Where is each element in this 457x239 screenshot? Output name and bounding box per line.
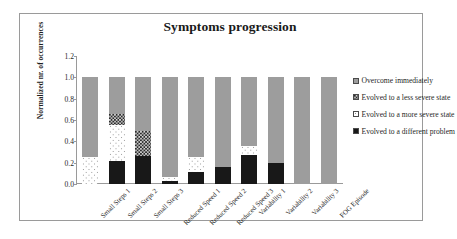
legend-item-label: Evolved to a different problem bbox=[362, 127, 456, 136]
y-axis-title: Normalized nr. of occurrences bbox=[36, 7, 45, 135]
plot-area: Small Steps 1Small Steps 2Small Steps 3R… bbox=[77, 56, 342, 184]
bar-segment bbox=[241, 77, 257, 145]
legend-item-label: Evolved to a more severe state bbox=[362, 110, 455, 119]
bar-segment bbox=[109, 114, 125, 126]
bar-segment bbox=[241, 146, 257, 156]
bar-segment bbox=[109, 77, 125, 113]
bar-4[interactable] bbox=[162, 77, 178, 184]
legend-swatch-icon bbox=[353, 78, 359, 84]
y-axis-tick-label: 0.2 bbox=[65, 158, 75, 167]
y-axis-tick-label: 0.8 bbox=[65, 94, 75, 103]
bar-3[interactable] bbox=[135, 77, 151, 184]
y-axis-tick-label: 0.6 bbox=[65, 116, 75, 125]
bar-segment bbox=[241, 155, 257, 184]
legend-item-4[interactable]: Evolved to a different problem bbox=[353, 127, 457, 136]
legend-item-2[interactable]: Evolved to a less severe state bbox=[353, 93, 457, 102]
x-axis-label: FOG Episode bbox=[338, 187, 371, 220]
bar-segment bbox=[135, 77, 151, 130]
bar-segment bbox=[82, 77, 98, 157]
y-axis-tick-mark bbox=[74, 120, 77, 121]
bar-segment bbox=[109, 125, 125, 160]
bar-10[interactable] bbox=[321, 77, 337, 184]
bar-segment bbox=[188, 157, 204, 172]
x-axis-label: Variability 2 bbox=[284, 187, 314, 217]
bar-segment bbox=[188, 172, 204, 184]
legend-swatch-icon bbox=[353, 128, 359, 134]
bar-5[interactable] bbox=[188, 77, 204, 184]
bar-7[interactable] bbox=[241, 77, 257, 184]
bar-2[interactable] bbox=[109, 77, 125, 184]
bar-segment bbox=[109, 161, 125, 184]
legend-item-label: Overcome immediately bbox=[362, 76, 433, 85]
legend-swatch-icon bbox=[353, 94, 359, 100]
bar-segment bbox=[82, 157, 98, 184]
bar-segment bbox=[162, 181, 178, 184]
bar-segment bbox=[215, 77, 231, 167]
y-axis-tick-mark bbox=[74, 163, 77, 164]
legend-swatch-icon bbox=[353, 111, 359, 117]
bar-segment bbox=[294, 77, 310, 184]
bar-segment bbox=[135, 131, 151, 157]
y-axis-tick-mark bbox=[74, 141, 77, 142]
bar-segment bbox=[321, 77, 337, 184]
y-axis-tick-label: 0.0 bbox=[65, 180, 75, 189]
chart-frame: Symptoms progression Normalized nr. of o… bbox=[19, 13, 423, 221]
bars-container: Small Steps 1Small Steps 2Small Steps 3R… bbox=[77, 56, 342, 184]
bar-1[interactable] bbox=[82, 77, 98, 184]
bar-6[interactable] bbox=[215, 77, 231, 184]
y-axis-tick-mark bbox=[74, 77, 77, 78]
legend-item-label: Evolved to a less severe state bbox=[362, 93, 451, 102]
y-axis-tick-label: 1.2 bbox=[65, 52, 75, 61]
y-axis-tick-mark bbox=[74, 184, 77, 185]
bar-segment bbox=[188, 77, 204, 157]
chart-title: Symptoms progression bbox=[110, 19, 350, 35]
y-axis-tick-label: 0.4 bbox=[65, 137, 75, 146]
y-axis-tick-mark bbox=[74, 56, 77, 57]
bar-9[interactable] bbox=[294, 77, 310, 184]
y-axis-tick-label: 1.0 bbox=[65, 73, 75, 82]
x-axis-label: Variability 3 bbox=[310, 187, 340, 217]
bar-segment bbox=[162, 77, 178, 176]
bar-segment bbox=[135, 156, 151, 184]
bar-8[interactable] bbox=[268, 77, 284, 184]
bar-segment bbox=[215, 167, 231, 184]
bar-segment bbox=[268, 163, 284, 184]
legend-item-3[interactable]: Evolved to a more severe state bbox=[353, 110, 457, 119]
chart-legend: Overcome immediatelyEvolved to a less se… bbox=[353, 76, 457, 144]
bar-segment bbox=[268, 77, 284, 162]
legend-item-1[interactable]: Overcome immediately bbox=[353, 76, 457, 85]
y-axis-tick-mark bbox=[74, 99, 77, 100]
